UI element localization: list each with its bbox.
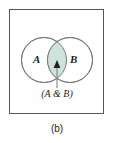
- set-b-label: B: [70, 54, 77, 65]
- figure-caption: (b): [0, 124, 114, 134]
- intersection-label: (A & B): [0, 89, 114, 99]
- set-a-label: A: [33, 54, 40, 65]
- venn-figure: A B (A & B) (b): [0, 0, 114, 143]
